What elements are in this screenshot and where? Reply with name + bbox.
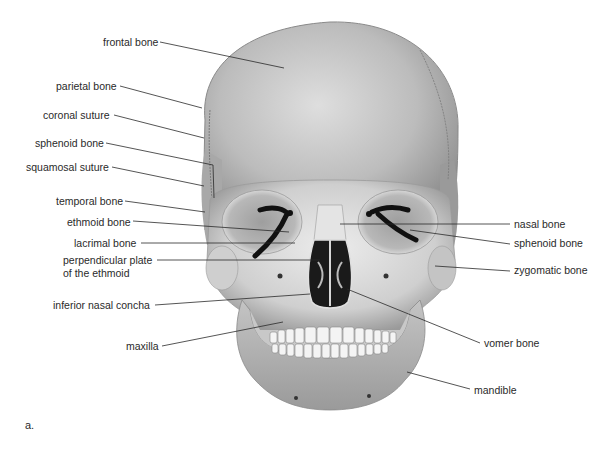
leader-squamosal-suture [112,167,204,186]
leader-mandible [407,372,470,389]
label-zygomatic-bone: zygomatic bone [514,264,588,276]
leader-coronal-suture [114,115,204,138]
leader-parietal-bone [120,86,202,108]
label-inferior-nasal-concha: inferior nasal concha [53,299,150,311]
label-maxilla: maxilla [126,340,159,352]
label-mandible: mandible [474,384,517,396]
label-nasal-bone: nasal bone [514,218,565,230]
label-vomer-bone: vomer bone [484,337,539,349]
panel-label: a. [25,419,34,431]
label-perpendicular-plate-line2: of the ethmoid [63,267,130,279]
label-sphenoid-bone-left: sphenoid bone [35,137,104,149]
label-ethmoid-bone: ethmoid bone [67,216,131,228]
leader-temporal-bone [125,201,205,212]
nasal-bone-shape [314,205,346,240]
zygomatic-left-shape [206,246,238,290]
label-lacrimal-bone: lacrimal bone [74,237,136,249]
label-squamosal-suture: squamosal suture [26,161,109,173]
label-parietal-bone: parietal bone [56,80,117,92]
label-frontal-bone: frontal bone [103,36,158,48]
orbit-right-shape [358,190,438,254]
label-coronal-suture: coronal suture [43,109,110,121]
orbit-left-shape [222,190,302,254]
teeth [270,327,396,358]
label-perpendicular-plate-line1: perpendicular plate [63,254,152,266]
zygomatic-right-shape [428,246,456,290]
skull-anterior-diagram: frontal bone parietal bone coronal sutur… [0,0,607,462]
label-sphenoid-bone-right: sphenoid bone [514,237,583,249]
label-temporal-bone: temporal bone [56,195,123,207]
leader-sphenoid-bone-left [106,143,214,198]
